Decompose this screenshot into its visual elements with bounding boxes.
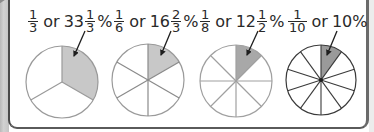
pie-sixths xyxy=(112,31,184,116)
pie-eighths xyxy=(200,31,272,117)
pie-tenths xyxy=(286,31,356,115)
pie-charts xyxy=(0,0,374,132)
pie-thirds xyxy=(26,31,98,118)
